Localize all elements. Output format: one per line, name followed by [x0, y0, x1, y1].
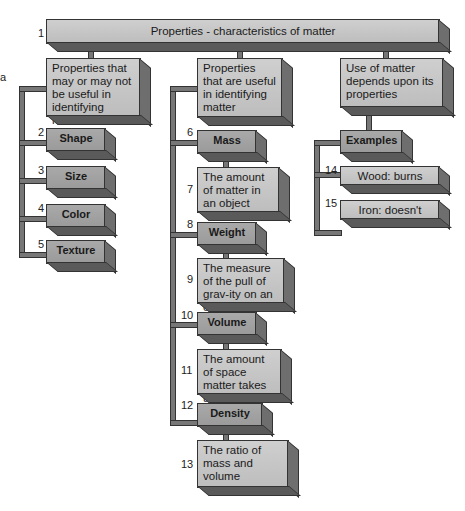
- node-number: 13: [181, 458, 193, 470]
- property-label: Color: [62, 208, 91, 220]
- node-number: 3: [38, 164, 44, 176]
- connector: [170, 140, 198, 146]
- node-number: 12: [181, 399, 193, 411]
- property-label: Volume: [208, 316, 247, 328]
- node-number: 4: [38, 202, 44, 214]
- property-label: Shape: [59, 132, 92, 144]
- examples-label: Examples: [346, 134, 397, 146]
- description-text: The amount of matter in an object: [203, 171, 264, 209]
- example-node: Iron: doesn't burn: [340, 200, 440, 220]
- example-label: Wood: burns: [358, 170, 423, 182]
- connector: [19, 252, 47, 258]
- node-number: 5: [38, 238, 44, 250]
- description-node: The amount of space matter takes up: [197, 349, 282, 395]
- connector: [314, 140, 320, 236]
- connector: [170, 420, 198, 426]
- connector: [314, 140, 342, 146]
- node-number: 7: [187, 183, 193, 195]
- branch-label: Properties that are useful in identifyin…: [203, 62, 276, 113]
- property-node: Texture: [46, 240, 106, 264]
- node-number: 8: [187, 218, 193, 230]
- connector: [170, 86, 198, 92]
- root-label: Properties - characteristics of matter: [151, 25, 336, 37]
- node-number: 2: [38, 126, 44, 138]
- connector: [19, 86, 47, 92]
- property-node: Density: [197, 403, 263, 427]
- property-label: Texture: [57, 244, 96, 256]
- node-number: 9: [187, 273, 193, 285]
- property-node: Shape: [46, 128, 106, 152]
- connector: [19, 216, 47, 222]
- connector: [19, 86, 25, 258]
- node-number: 14: [325, 164, 337, 176]
- property-label: Weight: [209, 226, 245, 238]
- side-mark: a: [0, 71, 6, 83]
- property-node: Color: [46, 204, 106, 228]
- examples-node: Examples: [340, 130, 403, 154]
- branch-label: Use of matter depends upon its propertie…: [346, 62, 434, 100]
- branch-node: Properties that may or may not be useful…: [46, 58, 141, 117]
- property-node: Volume: [197, 312, 257, 336]
- branch-node: Properties that are useful in identifyin…: [197, 58, 283, 118]
- property-label: Size: [65, 170, 87, 182]
- node-number: 15: [325, 197, 337, 209]
- property-label: Mass: [213, 134, 241, 146]
- property-label: Density: [210, 407, 250, 419]
- description-text: The ratio of mass and volume: [203, 444, 261, 482]
- example-node: Wood: burns: [340, 166, 440, 186]
- connector: [19, 178, 47, 184]
- node-number: 10: [181, 309, 193, 321]
- root-node: Properties - characteristics of matter: [46, 19, 440, 44]
- branch-node: Use of matter depends upon its propertie…: [340, 58, 444, 108]
- connector: [314, 230, 342, 236]
- connector: [170, 232, 198, 238]
- description-node: The measure of the pull of grav-ity on a…: [197, 258, 285, 304]
- connector: [19, 140, 47, 146]
- connector: [170, 86, 176, 426]
- property-node: Weight: [197, 222, 257, 246]
- description-node: The amount of matter in an object: [197, 167, 280, 213]
- property-node: Size: [46, 166, 106, 190]
- description-node: The ratio of mass and volume: [197, 440, 289, 488]
- property-node: Mass: [197, 130, 257, 154]
- node-number: 6: [187, 126, 193, 138]
- node-number: 1: [38, 27, 44, 39]
- node-number: 11: [181, 364, 192, 376]
- connector: [170, 322, 198, 328]
